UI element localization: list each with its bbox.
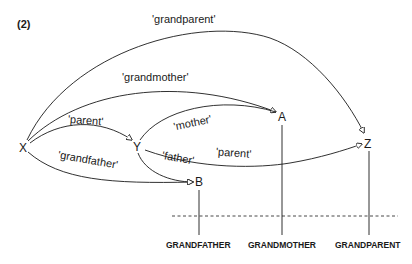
node-a: A	[278, 110, 286, 124]
label-grandparent: 'grandparent'	[152, 13, 216, 25]
label-parent-x-y: 'parent'	[68, 113, 104, 127]
edge-parent-x-y	[30, 125, 132, 143]
node-x: X	[19, 141, 27, 155]
concept-grandfather: GRANDFATHER	[166, 240, 231, 250]
label-mother: 'mother'	[172, 113, 212, 133]
label-grandfather: 'grandfather'	[57, 148, 119, 170]
label-father: 'father'	[161, 149, 195, 166]
concept-grandparent: GRANDPARENT	[335, 240, 401, 250]
label-parent-y-z: 'parent'	[216, 145, 252, 159]
node-y: Y	[133, 140, 141, 154]
figure-number: (2)	[17, 18, 31, 30]
label-grandmother: 'grandmother'	[122, 71, 189, 83]
node-b: B	[195, 175, 203, 189]
concept-grandmother: GRANDMOTHER	[248, 240, 316, 250]
node-z: Z	[364, 137, 371, 151]
edge-grandmother	[28, 91, 276, 141]
semantic-relations-diagram: (2) 'grandparent' 'grandmother' 'parent'…	[0, 0, 412, 264]
